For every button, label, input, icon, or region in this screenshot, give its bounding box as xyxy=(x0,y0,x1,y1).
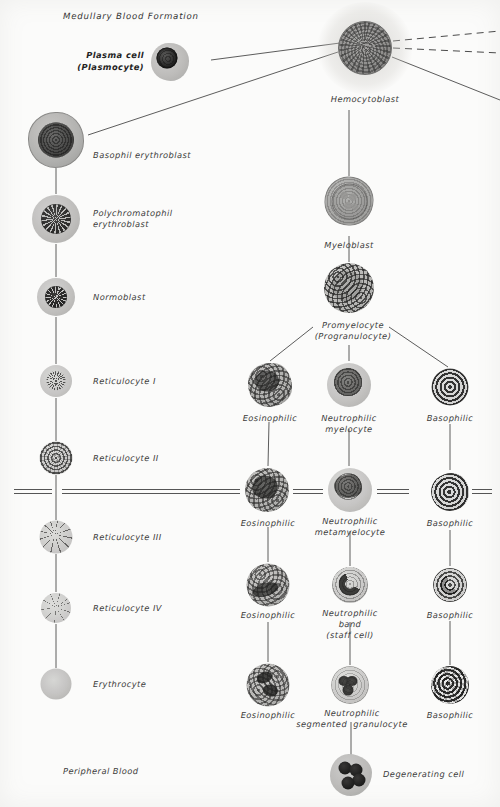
normoblast-label: Normoblast xyxy=(93,292,146,304)
link-promyelocyte-basophilic xyxy=(389,327,448,367)
neutrophilic-myelocyte-label-line2: myelocyte xyxy=(325,424,372,436)
reticulocyte-ii xyxy=(40,442,73,475)
reticulocyte-iv-reticulum xyxy=(41,593,71,623)
figure-footer: Peripheral Blood xyxy=(63,766,139,778)
polychromatophil-erythroblast xyxy=(32,195,80,243)
divider-segment-right xyxy=(472,489,492,494)
neutrophilic-band-label-line1: Neutrophilic xyxy=(322,608,378,620)
reticulocyte-i xyxy=(40,365,72,397)
reticulocyte-ii-label: Reticulocyte II xyxy=(93,453,159,465)
neutrophilic-segmented-label-line2: segmented granulocyte xyxy=(296,719,407,731)
eosinophilic-segmented-label: Eosinophilic xyxy=(241,710,296,722)
eosinophilic-myelocyte-label: Eosinophilic xyxy=(243,413,298,425)
eosinophilic-metamyelocyte xyxy=(245,468,289,512)
promyelocyte-label-line2: (Progranulocyte) xyxy=(315,331,392,343)
degenerating-cell-lobe-4 xyxy=(342,776,355,789)
polychromatophil-erythroblast-chromatin xyxy=(32,195,80,243)
reticulocyte-iv-label: Reticulocyte IV xyxy=(93,603,162,615)
basophilic-myelocyte-granules xyxy=(432,369,469,406)
neutrophilic-band-granules xyxy=(332,567,368,603)
basophilic-metamyelocyte-granules xyxy=(431,473,469,511)
myeloblast-label: Myeloblast xyxy=(324,240,373,252)
promyelocyte-label-line1: Promyelocyte xyxy=(322,320,384,332)
basophilic-band-granules xyxy=(433,568,467,602)
basophilic-segmented-granules xyxy=(431,666,469,704)
hemocytoblast xyxy=(338,21,392,75)
basophilic-band-label: Basophilic xyxy=(427,610,474,622)
normoblast-chromatin xyxy=(37,278,75,316)
reticulocyte-ii-reticulum xyxy=(40,442,73,475)
plasma-cell-label-line1: Plasma cell xyxy=(86,50,144,62)
degenerating-cell-label: Degenerating cell xyxy=(383,769,464,781)
promyelocyte-granules xyxy=(324,263,374,313)
basophilic-myelocyte xyxy=(432,369,469,406)
figure-title: Medullary Blood Formation xyxy=(63,12,199,24)
eosinophilic-myelocyte-granules xyxy=(248,363,292,407)
promyelocyte xyxy=(324,263,374,313)
divider-segment-mid-1 xyxy=(293,489,323,494)
myeloblast-nucleoli xyxy=(326,178,373,225)
plasma-cell xyxy=(151,43,189,81)
reticulocyte-i-label: Reticulocyte I xyxy=(93,376,156,388)
neutrophilic-segmented-granules xyxy=(331,666,369,704)
link-hemocytoblast-plasma-cell xyxy=(211,43,340,60)
neutrophilic-metamyelocyte-granules xyxy=(328,468,372,512)
eosinophilic-segmented-granules xyxy=(247,664,290,707)
eosinophilic-myelocyte xyxy=(248,363,292,407)
basophilic-myelocyte-label: Basophilic xyxy=(427,413,474,425)
basophil-erythroblast-chromatin xyxy=(29,113,83,167)
reticulocyte-iii-label: Reticulocyte III xyxy=(93,532,162,544)
neutrophilic-metamyelocyte-label-line1: Neutrophilic xyxy=(322,516,378,528)
reticulocyte-i-reticulum xyxy=(40,365,72,397)
neutrophilic-metamyelocyte xyxy=(328,468,372,512)
neutrophilic-band-label-line2: band xyxy=(339,619,362,631)
divider-segment-mid-2 xyxy=(377,489,409,494)
hemocytoblast-chromatin xyxy=(339,22,391,74)
erythrocyte xyxy=(41,669,72,700)
eosinophilic-metamyelocyte-label: Eosinophilic xyxy=(241,518,296,530)
hematopoiesis-diagram: Medullary Blood Formation Plasma cell (P… xyxy=(0,0,500,807)
basophil-erythroblast xyxy=(28,112,84,168)
degenerating-cell-lobe-3 xyxy=(353,774,366,787)
neutrophilic-myelocyte-label-line1: Neutrophilic xyxy=(321,413,377,425)
reticulocyte-iv xyxy=(41,593,71,623)
eosinophilic-band-granules xyxy=(247,564,290,607)
link-promyelocyte-eosinophilic xyxy=(270,327,313,361)
neutrophilic-metamyelocyte-label-line2: metamyelocyte xyxy=(315,527,386,539)
neutrophilic-myelocyte xyxy=(327,363,371,407)
neutrophilic-segmented xyxy=(331,666,369,704)
reticulocyte-iii xyxy=(40,521,73,554)
erythrocyte-label: Erythrocyte xyxy=(93,679,146,691)
neutrophilic-band xyxy=(332,567,368,603)
basophilic-segmented xyxy=(431,666,469,704)
eosinophilic-segmented xyxy=(247,664,290,707)
eosinophilic-band xyxy=(247,564,290,607)
plasma-cell-label-line2: (Plasmocyte) xyxy=(77,62,144,74)
divider-segment-main xyxy=(62,489,240,494)
myeloblast xyxy=(325,177,374,226)
polychromatophil-erythroblast-label-line1: Polychromatophil xyxy=(93,208,172,220)
basophilic-metamyelocyte xyxy=(431,473,469,511)
normoblast xyxy=(37,278,75,316)
neutrophilic-band-label-line3: (staff cell) xyxy=(326,630,373,642)
plasma-cell-chromatin xyxy=(151,43,189,81)
neutrophilic-myelocyte-granules xyxy=(327,363,371,407)
degenerating-cell xyxy=(330,754,372,796)
reticulocyte-iii-reticulum xyxy=(40,521,73,554)
neutrophilic-segmented-label-line1: Neutrophilic xyxy=(324,708,380,720)
link-eos-myelocyte-metamyelocyte xyxy=(268,422,269,466)
polychromatophil-erythroblast-label-line2: erythroblast xyxy=(93,219,149,231)
hemocytoblast-label: Hemocytoblast xyxy=(331,94,399,106)
basophilic-band xyxy=(433,568,467,602)
link-hemocytoblast-right-middle xyxy=(393,48,500,53)
basophilic-segmented-label: Basophilic xyxy=(427,710,474,722)
eosinophilic-band-label: Eosinophilic xyxy=(241,610,296,622)
basophilic-metamyelocyte-label: Basophilic xyxy=(427,518,474,530)
link-hemocytoblast-right-upper xyxy=(393,31,500,41)
link-hemocytoblast-right-lower xyxy=(392,57,500,100)
eosinophilic-metamyelocyte-granules xyxy=(245,468,289,512)
divider-segment-left xyxy=(14,489,52,494)
basophil-erythroblast-label: Basophil erythroblast xyxy=(93,150,191,162)
